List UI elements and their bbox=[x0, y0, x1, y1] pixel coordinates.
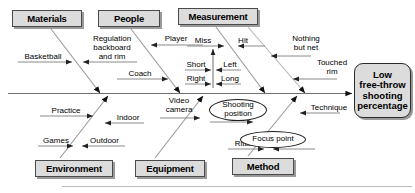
effect-label: Low free-throw shooting percentage bbox=[357, 70, 408, 112]
category-box-environment[interactable]: Environment bbox=[35, 160, 113, 177]
category-label-environment: Environment bbox=[46, 164, 102, 174]
cause-label-nothing-but-net: Nothing but net bbox=[284, 34, 328, 52]
cause-label-basketball: Basketball bbox=[16, 52, 70, 61]
cause-line-position: position bbox=[224, 109, 252, 118]
cause-label-technique: Technique bbox=[303, 103, 355, 112]
cause-label-hit: Hit bbox=[228, 36, 258, 45]
category-label-materials: Materials bbox=[27, 14, 66, 24]
category-label-measurement: Measurement bbox=[188, 12, 247, 22]
cause-ellipse-label-focus-point: Focus point bbox=[252, 135, 293, 144]
cause-label-long: Long bbox=[216, 74, 244, 83]
cause-line-and-rim: and rim bbox=[99, 52, 126, 61]
category-label-equipment: Equipment bbox=[146, 164, 193, 174]
cause-line-camera: camera bbox=[166, 105, 193, 114]
cause-label-left: Left bbox=[216, 60, 244, 69]
cause-line-but-net: but net bbox=[294, 43, 318, 52]
effect-line-2: free-throw bbox=[359, 79, 405, 90]
cause-line-backboard: backboard bbox=[93, 43, 130, 52]
cause-ellipse-focus-point[interactable]: Focus point bbox=[240, 131, 306, 148]
category-box-equipment[interactable]: Equipment bbox=[135, 160, 205, 177]
category-label-method: Method bbox=[247, 162, 280, 172]
cause-label-outdoor: Outdoor bbox=[82, 136, 127, 145]
category-box-measurement[interactable]: Measurement bbox=[178, 8, 258, 25]
footer-divider bbox=[62, 186, 412, 187]
cause-label-regulation-backboard-and-rim: Regulation backboard and rim bbox=[84, 34, 140, 61]
cause-ellipse-shooting-position[interactable]: Shooting position bbox=[209, 99, 267, 121]
cause-label-practice: Practice bbox=[40, 106, 92, 115]
cause-line-nothing: Nothing bbox=[292, 34, 320, 43]
cause-line-video: Video bbox=[169, 96, 189, 105]
cause-label-games: Games bbox=[36, 136, 76, 145]
effect-line-3: shooting bbox=[362, 90, 402, 101]
cause-line-regulation: Regulation bbox=[93, 34, 131, 43]
cause-label-coach: Coach bbox=[116, 69, 164, 78]
cause-label-indoor: Indoor bbox=[108, 113, 148, 122]
cause-label-short: Short bbox=[181, 60, 211, 69]
effect-box[interactable]: Low free-throw shooting percentage bbox=[354, 63, 411, 118]
category-label-people: People bbox=[114, 14, 144, 24]
cause-label-right: Right bbox=[181, 74, 211, 83]
cause-ellipse-label-shooting-position: Shooting position bbox=[222, 101, 254, 118]
cause-line-rim: rim bbox=[326, 67, 337, 76]
cause-label-miss: Miss bbox=[184, 36, 222, 45]
category-box-materials[interactable]: Materials bbox=[12, 10, 82, 27]
category-box-method[interactable]: Method bbox=[232, 158, 294, 175]
cause-label-video-camera: Video camera bbox=[158, 96, 200, 114]
fishbone-diagram: Materials People Measurement Environment… bbox=[0, 0, 415, 193]
cause-label-touched-rim: Touched rim bbox=[310, 58, 354, 76]
effect-line-1: Low bbox=[373, 69, 392, 80]
category-box-people[interactable]: People bbox=[98, 10, 160, 27]
cause-line-touched: Touched bbox=[317, 58, 347, 67]
effect-line-4: percentage bbox=[357, 100, 408, 111]
